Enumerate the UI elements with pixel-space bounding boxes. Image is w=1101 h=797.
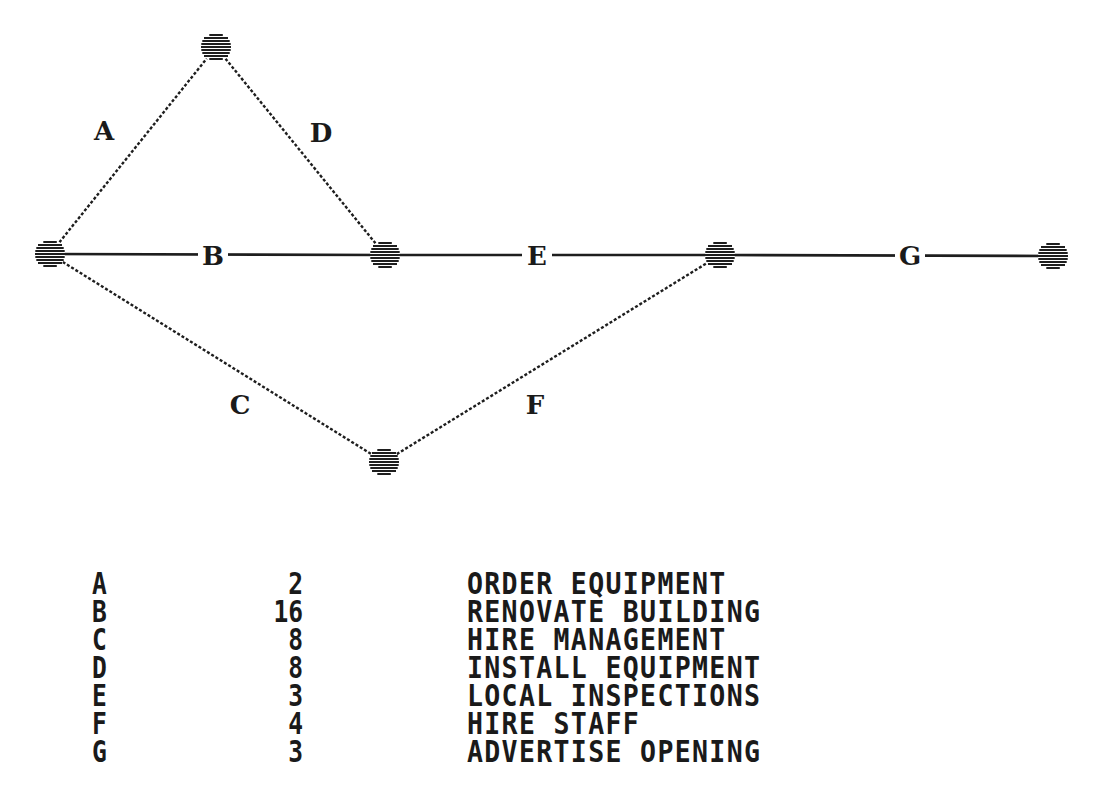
edge-labels-layer: ABCDEFG [93,116,925,420]
edge-c [50,254,384,462]
node-n3 [370,240,400,270]
node-n1 [35,239,65,269]
node-n2 [201,32,231,62]
activity-id: G [92,738,107,766]
edge-a [50,47,216,254]
node-n5 [705,240,735,270]
table-row-g: G 3 ADVERTISE OPENING [0,738,1101,766]
edge-label-a: A [93,116,115,146]
activity-table: A 2 ORDER EQUIPMENT B 16 RENOVATE BUILDI… [0,570,1101,766]
edge-label-b: B [202,241,224,271]
edge-label-c: C [230,390,251,420]
edge-f [384,255,720,462]
activity-description: ADVERTISE OPENING [467,738,761,766]
edge-g [720,255,1053,256]
node-n6 [1038,241,1068,271]
activity-duration: 3 [288,738,303,766]
edge-label-g: G [899,241,921,271]
edge-label-e: E [527,241,547,271]
node-n4 [369,447,399,477]
edge-d [216,47,385,255]
edge-label-f: F [526,390,545,420]
edge-label-d: D [310,118,333,148]
network-diagram: ABCDEFG [0,0,1101,500]
